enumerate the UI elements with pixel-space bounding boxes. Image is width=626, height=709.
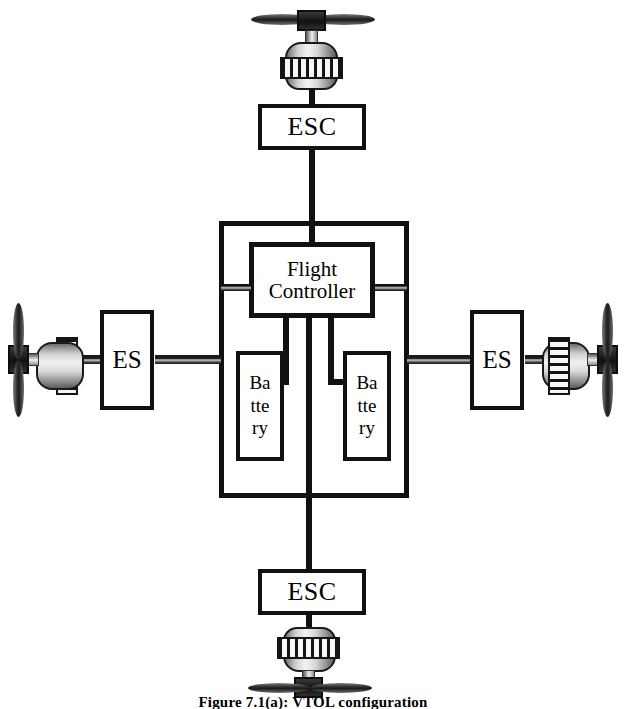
esc-top-label: ESC (287, 113, 336, 141)
propeller-blade-right-bottom (602, 360, 613, 417)
esc-left[interactable]: ES (100, 310, 154, 410)
stub-flight-controller-right (375, 284, 407, 291)
propeller-blade-bottom-left (248, 683, 310, 693)
propeller-blade-bottom-right (310, 683, 372, 693)
motor-band-top (280, 57, 343, 79)
propeller-blade-right-top (602, 303, 613, 360)
motor-body-left (36, 342, 84, 390)
esc-right[interactable]: ES (470, 310, 524, 410)
motor-band-right (548, 337, 570, 395)
propeller-blade-left-bottom (13, 360, 24, 417)
motor-band-stripes-right (550, 339, 568, 393)
esc-right-label: ES (482, 347, 511, 374)
battery-left-label: Ba tte ry (249, 372, 270, 439)
wire-frame-to-flight-controller (309, 223, 315, 244)
battery-right-label: Ba tte ry (356, 372, 377, 439)
wire-fc-to-battery-right-vertical (328, 318, 334, 384)
esc-top[interactable]: ESC (258, 104, 366, 150)
wire-fc-center-bus (306, 318, 312, 498)
motor-band-stripes-top (282, 59, 341, 77)
battery-right[interactable]: Ba tte ry (343, 351, 391, 461)
figure-caption-label: Figure 7.1(a): (198, 694, 288, 709)
arm-left-inner (155, 355, 221, 364)
figure-canvas: ESC Flight Controller Ba tte ry Ba tte r… (0, 0, 626, 709)
propeller-hub-top (297, 10, 326, 31)
flight-controller-label: Flight Controller (269, 258, 355, 303)
propeller-blade-left-top (13, 303, 24, 360)
figure-caption-text: VTOL configuration (292, 694, 427, 709)
wire-frame-to-esc-bottom (306, 496, 312, 571)
motor-band-stripes-bottom (279, 639, 338, 657)
esc-bottom-label: ESC (287, 578, 336, 606)
wire-esc-top-to-frame (309, 150, 315, 223)
stub-flight-controller-left (221, 284, 251, 291)
arm-right-inner (407, 355, 471, 364)
esc-left-label: ES (112, 347, 141, 374)
motor-band-bottom (277, 637, 340, 659)
battery-left[interactable]: Ba tte ry (236, 351, 284, 461)
esc-bottom[interactable]: ESC (258, 569, 366, 615)
flight-controller[interactable]: Flight Controller (249, 242, 375, 318)
figure-caption: Figure 7.1(a): VTOL configuration (0, 694, 626, 709)
